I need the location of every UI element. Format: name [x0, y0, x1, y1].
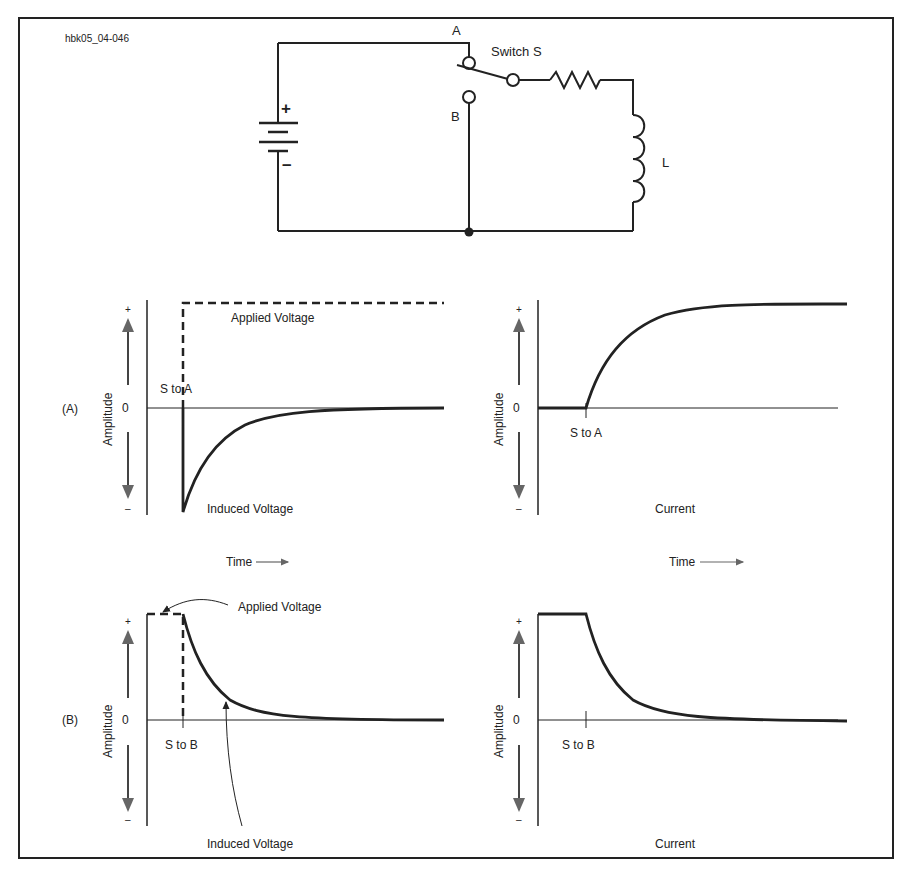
amplitude-axis-label: Amplitude — [102, 393, 114, 446]
minus-label: – — [125, 815, 131, 825]
terminal-b-label: B — [451, 110, 460, 123]
plus-label: + — [125, 305, 131, 315]
figure-id: hbk05_04-046 — [65, 33, 129, 44]
minus-label: – — [516, 815, 522, 825]
row-a-label: (A) — [62, 403, 78, 415]
amplitude-axis-label: Amplitude — [102, 705, 114, 758]
switch-pivot-icon — [507, 74, 519, 86]
plus-label: + — [516, 305, 522, 315]
applied-pointer-arrow-icon — [163, 600, 228, 612]
time-label: Time — [669, 556, 695, 568]
inductor-label: L — [662, 156, 669, 169]
circuit-schematic — [259, 43, 644, 237]
wire-top — [278, 43, 469, 57]
event-label: S to A — [570, 427, 602, 439]
terminal-a-label: A — [452, 24, 461, 37]
battery-minus-label: – — [282, 156, 291, 173]
applied-voltage-label: Applied Voltage — [231, 312, 314, 324]
event-label: S to B — [165, 739, 198, 751]
figure-frame — [19, 18, 893, 858]
time-label: Time — [226, 556, 252, 568]
current-rise-curve — [538, 304, 847, 408]
resistor-icon — [550, 72, 600, 88]
figure-canvas: hbk05_04-046 — [0, 0, 908, 870]
battery-icon — [259, 123, 298, 151]
plus-label: + — [516, 617, 522, 627]
zero-label: 0 — [513, 402, 520, 414]
terminal-b-icon — [463, 91, 475, 103]
inductor-icon — [633, 115, 644, 202]
amplitude-axis-label: Amplitude — [493, 705, 505, 758]
minus-label: – — [125, 504, 131, 514]
junction-dot — [465, 228, 474, 237]
row-b-label: (B) — [62, 714, 78, 726]
amplitude-axis-label: Amplitude — [493, 393, 505, 446]
applied-voltage-line — [147, 614, 183, 718]
induced-pointer-arrow-icon — [226, 702, 242, 826]
graph-a-induced-voltage — [128, 300, 444, 515]
induced-voltage-label: Induced Voltage — [207, 838, 293, 850]
graph-a-current — [519, 300, 847, 515]
battery-plus-label: + — [281, 100, 291, 117]
current-caption: Current — [655, 503, 695, 515]
event-label: S to A — [160, 383, 192, 395]
applied-voltage-label: Applied Voltage — [238, 601, 321, 613]
current-decay-curve — [538, 614, 847, 721]
event-label: S to B — [562, 739, 595, 751]
zero-label: 0 — [122, 402, 129, 414]
induced-voltage-curve — [183, 408, 444, 512]
zero-label: 0 — [513, 714, 520, 726]
induced-voltage-label: Induced Voltage — [207, 503, 293, 515]
zero-label: 0 — [122, 714, 129, 726]
switch-arm — [457, 65, 508, 79]
current-caption: Current — [655, 838, 695, 850]
graph-b-induced-voltage — [128, 600, 444, 826]
plus-label: + — [125, 617, 131, 627]
minus-label: – — [516, 504, 522, 514]
induced-voltage-curve — [183, 614, 444, 720]
switch-label: Switch S — [491, 45, 542, 58]
graph-b-current — [519, 614, 847, 826]
